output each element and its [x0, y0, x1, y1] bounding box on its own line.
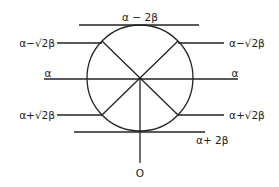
label-origin: O	[136, 167, 144, 179]
spoke-upper-right	[140, 41, 178, 78]
label-upper-left: α−√2β	[19, 37, 55, 49]
spoke-upper-left	[102, 41, 140, 78]
label-bottom: α+ 2β	[196, 134, 228, 146]
label-top: α − 2β	[122, 11, 158, 23]
label-lower-right: α+√2β	[229, 109, 265, 121]
spoke-lower-right	[140, 78, 178, 115]
label-upper-right: α−√2β	[229, 37, 265, 49]
spoke-lower-left	[102, 78, 140, 115]
label-lower-left: α+√2β	[19, 109, 55, 121]
label-mid-right: α	[232, 67, 239, 79]
label-mid-left: α	[45, 67, 52, 79]
frost-circle-diagram: α − 2β α−√2β α−√2β α α α+√2β α+√2β α+ 2β…	[0, 0, 279, 187]
